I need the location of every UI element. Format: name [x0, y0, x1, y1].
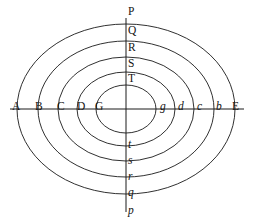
- label-left-1: B: [35, 101, 43, 113]
- label-bottom-1: t: [128, 139, 131, 151]
- label-top-1: Q: [128, 25, 136, 37]
- label-top-3: S: [128, 58, 134, 70]
- label-outer-left: A: [12, 101, 20, 113]
- label-bottom-2: s: [128, 155, 132, 167]
- label-right-1: g: [160, 101, 166, 113]
- label-top-2: R: [128, 42, 136, 54]
- label-right-4: b: [216, 101, 222, 113]
- label-outer-right: E: [232, 101, 239, 113]
- label-bottom-3: r: [128, 171, 132, 183]
- label-left-3: D: [77, 101, 85, 113]
- label-left-2: C: [57, 101, 65, 113]
- label-right-2: d: [178, 101, 184, 113]
- label-top-4: T: [128, 73, 135, 85]
- label-left-4: G: [95, 101, 103, 113]
- label-bottom-4: q: [128, 187, 134, 199]
- label-outer-top: P: [128, 6, 134, 18]
- label-right-3: c: [197, 101, 202, 113]
- axis-group: [10, 18, 244, 212]
- figure-container: AEPpBCDGgdcbQRSTtsrq: [0, 0, 254, 220]
- label-outer-bottom: p: [128, 205, 134, 217]
